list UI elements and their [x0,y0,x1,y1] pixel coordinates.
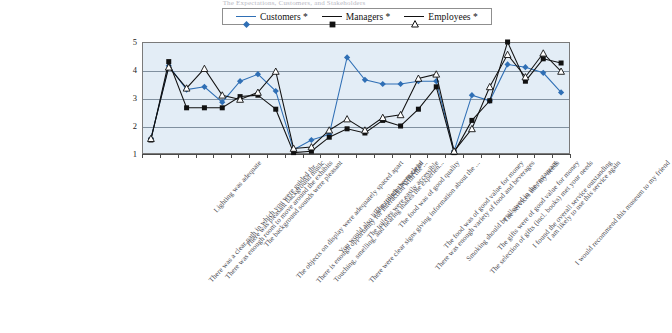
x-axis-tick [392,154,393,158]
x-axis-category-label: I would recommend this museum to my frie… [574,159,672,267]
square-data-point [416,107,421,112]
x-axis-tick [285,154,286,158]
series-1 [148,54,564,154]
x-axis-tick [481,154,482,158]
x-axis-tick [517,154,518,158]
open-triangle-data-point [469,125,476,131]
x-axis-category-label: I found the overall service outstanding [531,159,614,250]
x-axis-tick [445,154,446,158]
legend-label-employees: Employees * [428,12,477,22]
x-axis-category-label: There was enough variety of food and bev… [434,159,537,272]
open-triangle-marker-icon [404,12,424,22]
square-data-point [541,56,546,61]
x-axis-category-label: The gifts were of good value for money [496,159,581,252]
diamond-data-point [522,64,528,70]
square-data-point [487,98,492,103]
open-triangle-data-point [540,50,547,56]
x-axis-tick [196,154,197,158]
legend-item-managers[interactable]: Managers * [322,12,391,22]
x-axis-tick [213,154,214,158]
open-triangle-data-point [272,68,279,74]
open-triangle-data-point [433,71,440,77]
square-data-point [327,135,332,140]
x-axis-category-label: The objects on display were adequately s… [295,159,405,280]
x-axis-tick [552,154,553,158]
diamond-data-point [308,137,314,143]
x-axis-tick [142,154,143,158]
open-triangle-data-point [362,127,369,133]
series-line [151,57,561,151]
diamond-marker-icon [236,12,256,22]
x-axis-category-label: You would also like to touch the materia… [337,159,425,255]
y-axis-tick-label: 5 [123,37,137,47]
square-data-point [398,124,403,129]
x-axis-tick [338,154,339,158]
x-axis-tick [374,154,375,158]
series-line [151,42,561,153]
y-axis-tick-label: 4 [123,65,137,75]
x-axis-tick [267,154,268,158]
x-axis-tick [178,154,179,158]
series-2 [148,40,563,156]
x-axis-category-label: There were clear signs giving informatio… [368,159,482,285]
open-triangle-data-point [397,111,404,117]
legend-label-customers: Customers * [260,12,308,22]
diamond-data-point [469,92,475,98]
series-3 [148,50,565,154]
x-axis-tick [534,154,535,158]
square-data-point [220,105,225,110]
square-data-point [184,105,189,110]
square-data-point [202,105,207,110]
x-axis-tick [463,154,464,158]
square-data-point [505,40,510,45]
x-axis-category-label: The background sounds were pleasant [263,159,345,249]
y-axis-tick-label: 1 [123,149,137,159]
chart-title: The Expectations, Customers, and Stakeho… [0,0,588,7]
x-axis-category-label: The selection of gifts (incl. books) met… [489,159,595,276]
open-triangle-data-point [201,65,208,71]
x-axis-category-label: I am likely to use this service again [545,159,621,243]
square-marker-icon [322,12,342,22]
x-axis-tick [249,154,250,158]
open-triangle-data-point [344,116,351,122]
x-axis-category-label: There was enough room to move around the… [224,159,335,281]
x-axis-category-label: Touching, smelling, and hearing makes th… [332,159,445,284]
x-axis-category-label: The toiletes were clean [373,159,425,215]
open-triangle-data-point [219,92,226,98]
legend-item-customers[interactable]: Customers * [236,12,308,22]
series-layer [142,42,570,154]
open-triangle-data-point [326,127,333,133]
square-data-point [273,107,278,112]
square-data-point [434,84,439,89]
square-data-point [559,61,564,66]
square-data-point [345,126,350,131]
chart-legend: Customers * Managers * Employees * [222,8,492,25]
x-axis-tick [499,154,500,158]
square-data-point [469,118,474,123]
open-triangle-data-point [504,51,511,57]
x-axis-tick [427,154,428,158]
legend-label-managers: Managers * [346,12,391,22]
legend-item-employees[interactable]: Employees * [404,12,477,22]
y-axis-tick-label: 3 [123,93,137,103]
x-axis-tick [410,154,411,158]
x-axis-category-label: There is enough opportunity for interact… [315,159,430,285]
x-axis-tick [160,154,161,158]
diamond-data-point [380,81,386,87]
y-axis-tick-label: 2 [123,121,137,131]
x-axis-category-label: The food was of good value for money [442,159,525,250]
x-axis-category-label: Smoking should be allowed in the restaur… [465,159,560,263]
x-axis-tick [231,154,232,158]
x-axis-category-label: The toiletes were easily accessible [366,159,441,241]
x-axis-tick [570,154,571,158]
open-triangle-data-point [486,83,493,89]
diamond-data-point [504,61,510,67]
x-axis-tick [356,154,357,158]
x-axis-category-label: The food was of good quality [397,159,462,229]
x-axis-category-label: Lighting was adequate [212,159,263,214]
x-axis-tick [320,154,321,158]
x-axis-category-label: There was pleasant background music [245,159,327,249]
x-axis-category-label: The services met my needs [501,159,561,224]
x-axis-tick [303,154,304,158]
